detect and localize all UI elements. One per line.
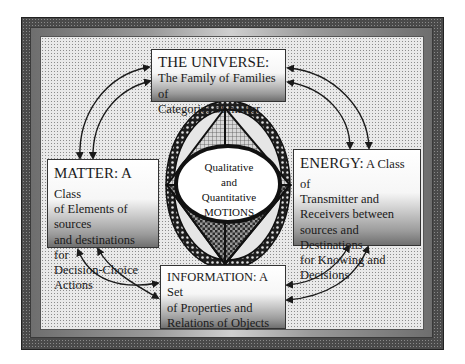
universe-line-2: Categories of matter <box>158 102 279 117</box>
energy-line-5: Decisions <box>300 268 414 283</box>
energy-line-1: Transmitter and <box>300 192 414 207</box>
center-line-1: Qualitative <box>185 160 273 175</box>
information-line-1: of Properties and <box>167 301 279 316</box>
arrows-universe-energy <box>288 68 369 148</box>
universe-line-1: The Family of Families of <box>158 71 279 102</box>
center-line-3: Quantitative <box>185 190 273 205</box>
energy-line-3: sources and Destinations <box>300 223 414 254</box>
information-line-2: Relations of Objects <box>167 316 279 331</box>
energy-line-2: Receivers between <box>300 207 414 222</box>
information-heading: INFORMATION: A Set <box>167 270 279 301</box>
energy-heading: ENERGY: <box>300 155 364 171</box>
center-line-2: and <box>185 175 273 190</box>
matter-heading-tail: Class <box>54 187 81 201</box>
energy-line-4: for Knowing and <box>300 253 414 268</box>
universe-box: THE UNIVERSE: The Family of Families of … <box>151 49 286 102</box>
matter-line-2: and destinations for <box>54 233 152 264</box>
matter-line-3: Decision-Choice <box>54 263 152 278</box>
arrows-universe-matter <box>80 67 150 158</box>
matter-box: MATTER: A Class of Elements of sources a… <box>47 159 159 248</box>
center-line-4: MOTIONS <box>185 205 273 220</box>
universe-heading: THE UNIVERSE: <box>158 53 279 71</box>
information-box: INFORMATION: A Set of Properties and Rel… <box>160 265 286 329</box>
center-label: Qualitative and Quantitative MOTIONS <box>185 160 273 220</box>
matter-line-4: Actions <box>54 278 152 293</box>
matter-heading: MATTER: A <box>54 165 132 181</box>
energy-box: ENERGY: A Class of Transmitter and Recei… <box>293 149 421 246</box>
matter-line-1: of Elements of sources <box>54 202 152 233</box>
